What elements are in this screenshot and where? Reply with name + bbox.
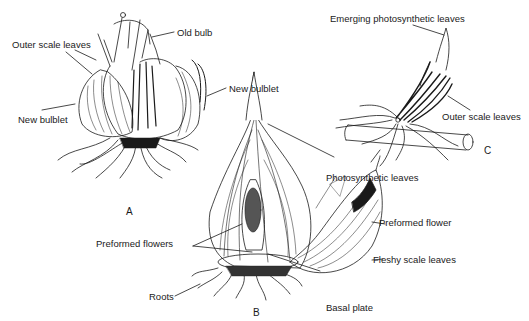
panel-b-drawing	[192, 72, 382, 300]
label-preformed-flower: Preformed flower	[379, 218, 451, 228]
bulb-anatomy-figure: Old bulb Outer scale leaves New bulblet …	[0, 0, 529, 321]
label-emerging-photosynthetic-leaves: Emerging photosynthetic leaves	[330, 14, 465, 24]
label-roots: Roots	[149, 292, 174, 302]
label-photosynthetic-leaves: Photosynthetic leaves	[326, 173, 418, 183]
label-new-bulblet-left: New bulblet	[18, 115, 68, 125]
panel-letter-b: B	[253, 307, 260, 318]
label-preformed-flowers: Preformed flowers	[96, 239, 173, 249]
panel-letter-c: C	[484, 145, 491, 156]
label-outer-scale-leaves-c: Outer scale leaves	[442, 112, 521, 122]
panel-letter-a: A	[126, 206, 133, 217]
label-outer-scale-leaves-a: Outer scale leaves	[12, 40, 91, 50]
label-fleshy-scale-leaves: Fleshy scale leaves	[373, 255, 456, 265]
label-old-bulb: Old bulb	[177, 28, 212, 38]
panel-c-drawing	[336, 28, 473, 166]
label-basal-plate: Basal plate	[326, 303, 373, 313]
label-new-bulblet-right: New bulblet	[229, 84, 279, 94]
